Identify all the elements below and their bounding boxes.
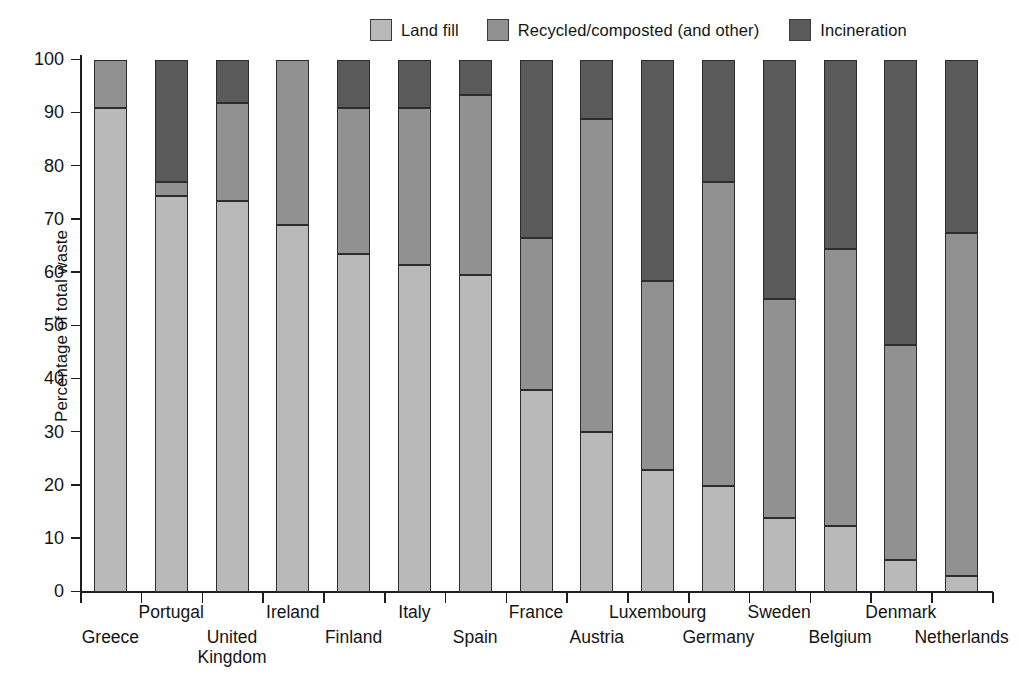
- bar-ireland: [276, 60, 309, 592]
- y-axis-tick: 60: [71, 271, 80, 273]
- y-axis-tick-label: 20: [44, 474, 64, 495]
- y-axis-tick: 40: [71, 378, 80, 380]
- legend-item: Land fill: [370, 19, 459, 41]
- bar-segment: [398, 265, 431, 592]
- bar-segment: [155, 196, 188, 592]
- y-axis-tick-label: 70: [44, 208, 64, 229]
- bar-segment: [94, 108, 127, 592]
- y-axis-tick: 90: [71, 112, 80, 114]
- y-axis-tick-label: 30: [44, 421, 64, 442]
- bar-segment: [216, 201, 249, 592]
- bar-segment: [702, 182, 735, 485]
- legend-swatch-icon: [487, 19, 509, 41]
- legend-swatch-icon: [789, 19, 811, 41]
- bar-segment: [824, 526, 857, 593]
- y-axis-tick-label: 10: [44, 528, 64, 549]
- bar-segment: [884, 345, 917, 560]
- bar-segment: [216, 60, 249, 103]
- y-axis-tick: 20: [71, 484, 80, 486]
- legend-label: Land fill: [401, 21, 459, 40]
- bar-segment: [884, 560, 917, 592]
- y-axis-tick-label: 60: [44, 262, 64, 283]
- bar-segment: [276, 60, 309, 225]
- bar-portugal: [155, 60, 188, 592]
- bar-spain: [459, 60, 492, 592]
- bar-segment: [337, 254, 370, 592]
- x-axis-label: Denmark: [826, 602, 976, 622]
- bar-segment: [459, 95, 492, 276]
- bar-segment: [398, 108, 431, 265]
- bar-denmark: [884, 60, 917, 592]
- chart-legend: Land fillRecycled/composted (and other)I…: [370, 14, 950, 46]
- y-axis-tick-label: 40: [44, 368, 64, 389]
- y-axis-tick: 70: [71, 218, 80, 220]
- stacked-bar-chart: Land fillRecycled/composted (and other)I…: [0, 0, 1018, 696]
- x-axis-label: Netherlands: [887, 627, 1018, 647]
- bar-segment: [520, 238, 553, 390]
- bar-segment: [641, 470, 674, 592]
- legend-item: Recycled/composted (and other): [487, 19, 759, 41]
- y-axis-tick-label: 90: [44, 102, 64, 123]
- bar-segment: [337, 60, 370, 108]
- bar-segment: [459, 275, 492, 592]
- bar-segment: [580, 119, 613, 433]
- legend-swatch-icon: [370, 19, 392, 41]
- y-axis-tick: 10: [71, 537, 80, 539]
- bar-segment: [702, 486, 735, 592]
- bar-segment: [763, 299, 796, 517]
- bar-segment: [155, 60, 188, 182]
- bar-germany: [702, 60, 735, 592]
- bar-segment: [884, 60, 917, 345]
- bar-segment: [276, 225, 309, 592]
- bar-segment: [337, 108, 370, 254]
- bar-finland: [337, 60, 370, 592]
- bar-segment: [763, 60, 796, 299]
- y-axis-tick: 50: [71, 325, 80, 327]
- bar-segment: [155, 182, 188, 195]
- bar-luxembourg: [641, 60, 674, 592]
- bar-netherlands: [945, 60, 978, 592]
- bar-segment: [641, 281, 674, 470]
- legend-label: Incineration: [820, 21, 907, 40]
- y-axis-tick-label: 100: [34, 49, 64, 70]
- bar-austria: [580, 60, 613, 592]
- bar-italy: [398, 60, 431, 592]
- bar-sweden: [763, 60, 796, 592]
- bar-segment: [824, 60, 857, 249]
- bar-segment: [824, 249, 857, 526]
- bar-segment: [580, 60, 613, 119]
- bar-segment: [945, 60, 978, 233]
- legend-label: Recycled/composted (and other): [518, 21, 759, 40]
- bar-segment: [459, 60, 492, 95]
- y-axis-tick: 0: [71, 591, 80, 593]
- y-axis-tick: 30: [71, 431, 80, 433]
- plot-area: Percentage of total waste 01020304050607…: [80, 60, 992, 592]
- bar-segment: [398, 60, 431, 108]
- bar-segment: [520, 60, 553, 238]
- bar-segment: [580, 432, 613, 592]
- bar-france: [520, 60, 553, 592]
- bar-united-kingdom: [216, 60, 249, 592]
- bar-segment: [641, 60, 674, 281]
- bar-segment: [702, 60, 735, 182]
- bar-segment: [520, 390, 553, 592]
- y-axis-tick-label: 50: [44, 315, 64, 336]
- legend-item: Incineration: [789, 19, 907, 41]
- bar-segment: [94, 60, 127, 108]
- bar-segment: [945, 576, 978, 592]
- y-axis-tick: 80: [71, 165, 80, 167]
- x-axis-tick: [80, 592, 82, 603]
- y-axis-tick-label: 0: [54, 581, 64, 602]
- bar-belgium: [824, 60, 857, 592]
- y-axis-tick-label: 80: [44, 155, 64, 176]
- bar-segment: [216, 103, 249, 201]
- x-axis-tick: [992, 592, 994, 603]
- bar-segment: [945, 233, 978, 576]
- y-axis-tick: 100: [71, 59, 80, 61]
- bar-greece: [94, 60, 127, 592]
- bar-segment: [763, 518, 796, 592]
